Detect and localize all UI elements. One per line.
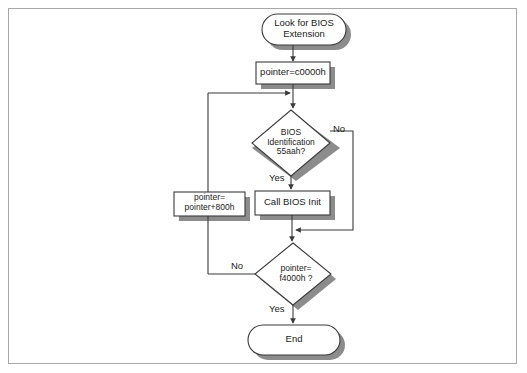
node-init-pointer[interactable] [256, 62, 330, 84]
flowchart-page: Look for BIOS Extension pointer=c0000h B… [0, 0, 527, 373]
node-pointer-limit-check[interactable] [255, 243, 331, 305]
node-bios-id-check[interactable] [252, 110, 330, 176]
node-advance-pointer[interactable] [174, 192, 245, 216]
flowchart-canvas [0, 0, 527, 373]
shape-outlines [174, 14, 346, 355]
node-end[interactable] [248, 325, 340, 355]
node-start[interactable] [262, 14, 346, 45]
node-call-bios-init[interactable] [255, 191, 330, 215]
